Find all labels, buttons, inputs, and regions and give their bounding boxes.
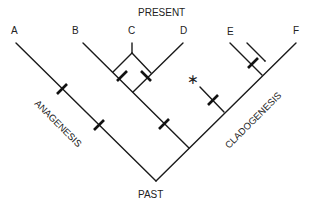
taxon-c-label: C (128, 25, 135, 36)
past-label: PAST (138, 189, 163, 200)
lineage-b-line (83, 43, 189, 148)
anagenesis-label: ANAGENESIS (33, 98, 84, 149)
lineage-a-line (16, 43, 156, 181)
lineage-d-line (133, 43, 183, 92)
taxon-d-label: D (180, 25, 187, 36)
cladogenesis-label: CLADOGENESIS (223, 90, 284, 151)
tick-b-upper (117, 71, 127, 81)
taxon-a-label: A (11, 25, 18, 36)
taxon-b-label: B (72, 25, 79, 36)
taxon-f-label: F (293, 25, 299, 36)
lineage-c-left-arm (113, 53, 132, 72)
lineage-f-line (156, 43, 296, 181)
cladogram-diagram: PRESENT PAST A B C D E F ANAGENESIS CLAD… (0, 0, 313, 204)
lineage-c-right-arm (132, 53, 151, 73)
extinct-marker-icon: ∗ (187, 71, 199, 87)
taxon-e-label: E (227, 26, 234, 37)
present-label: PRESENT (138, 7, 185, 18)
